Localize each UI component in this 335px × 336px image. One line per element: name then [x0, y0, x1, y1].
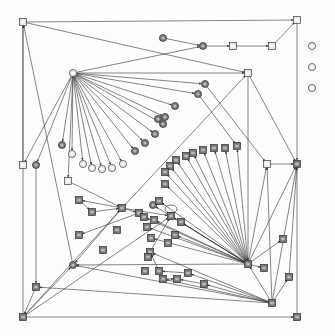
node-label-glyph	[163, 171, 167, 174]
graph-edge	[167, 280, 269, 302]
node-label-glyph	[270, 45, 274, 48]
node-label-glyph	[295, 163, 299, 166]
node-label-glyph	[110, 166, 113, 169]
node-label-glyph	[310, 86, 313, 89]
node-label-glyph	[101, 249, 105, 252]
node-label-glyph	[246, 72, 250, 75]
node-label-glyph	[295, 19, 299, 22]
self-loop-edge	[165, 205, 177, 213]
node-label-glyph	[70, 152, 73, 155]
node-label-glyph	[81, 162, 84, 165]
graph-edge	[152, 255, 158, 267]
graph-edge	[76, 75, 152, 132]
node-label-glyph	[71, 263, 74, 266]
node-label-glyph	[34, 286, 38, 289]
graph-svg	[0, 0, 335, 336]
graph-edge	[249, 168, 267, 261]
node-label-glyph	[146, 256, 150, 259]
node-label-glyph	[115, 229, 119, 232]
node-label-glyph	[246, 263, 250, 266]
node-label-glyph	[270, 302, 274, 305]
graph-edge	[172, 169, 246, 261]
node-label-glyph	[201, 44, 204, 47]
node-label-glyph	[90, 211, 94, 214]
graph-edge	[181, 280, 201, 284]
node-label-glyph	[145, 226, 149, 229]
node-label-glyph	[77, 199, 81, 202]
graph-edge	[74, 76, 110, 164]
node-label-glyph	[169, 215, 173, 218]
node-label-glyph	[184, 155, 188, 158]
graph-edge	[77, 266, 269, 303]
node-label-glyph	[142, 216, 146, 219]
node-label-glyph	[163, 183, 167, 186]
node-label-glyph	[161, 122, 164, 125]
graph-edge	[250, 76, 296, 161]
node-label-glyph	[148, 251, 152, 254]
graph-edge	[96, 208, 119, 211]
node-label-glyph	[161, 278, 165, 281]
node-label-glyph	[310, 65, 313, 68]
node-label-glyph	[133, 149, 136, 152]
node-label-glyph	[21, 164, 25, 167]
node-label-glyph	[143, 141, 146, 144]
graph-edge	[77, 264, 245, 265]
node-label-glyph	[21, 21, 25, 24]
graph-edge	[76, 74, 171, 105]
node-label-glyph	[143, 270, 147, 273]
node-label-glyph	[156, 117, 159, 120]
node-label-glyph	[100, 167, 103, 170]
node-label-glyph	[173, 104, 176, 107]
graph-edge	[251, 265, 260, 267]
graph-edge	[76, 75, 160, 122]
node-label-glyph	[157, 200, 161, 203]
graph-edge	[167, 175, 245, 262]
node-label-glyph	[295, 316, 299, 319]
graph-edge	[76, 76, 143, 141]
graph-edge	[25, 268, 70, 315]
node-label-glyph	[179, 221, 183, 224]
node-label-glyph	[166, 242, 170, 245]
graph-edge	[75, 76, 133, 148]
node-label-glyph	[121, 162, 124, 165]
node-label-glyph	[153, 132, 156, 135]
graph-edge	[274, 280, 287, 300]
graph-edge	[200, 97, 235, 143]
graph-edge	[178, 163, 246, 261]
graph-edge	[25, 76, 72, 162]
node-label-glyph	[310, 44, 313, 47]
graph-edge	[37, 76, 71, 161]
node-label-glyph	[281, 238, 285, 241]
graph-edge	[195, 156, 247, 261]
node-label-glyph	[157, 270, 161, 273]
graph-edge	[77, 74, 195, 94]
node-label-glyph	[196, 92, 199, 95]
graph-edge	[204, 153, 246, 260]
node-label-glyph	[201, 149, 205, 152]
node-label-glyph	[149, 237, 153, 240]
node-label-glyph	[174, 159, 178, 162]
node-label-glyph	[191, 152, 195, 155]
graph-edge	[27, 23, 245, 72]
graph-edge	[75, 76, 122, 161]
node-label-glyph	[212, 147, 216, 150]
node-label-glyph	[161, 36, 164, 39]
node-label-glyph	[77, 234, 81, 237]
graph-edge	[77, 47, 200, 73]
graph-edge	[27, 20, 294, 22]
node-label-glyph	[235, 145, 239, 148]
node-label-glyph	[203, 82, 206, 85]
graph-edge	[289, 168, 296, 274]
graph-edge	[26, 218, 168, 315]
node-label-glyph	[175, 278, 179, 281]
graph-edge	[83, 201, 119, 208]
node-label-glyph	[90, 166, 93, 169]
graph-edge	[167, 39, 200, 46]
graph-edge	[82, 214, 135, 234]
node-label-glyph	[287, 276, 291, 279]
node-label-glyph	[60, 143, 63, 146]
node-label-glyph	[173, 234, 177, 237]
node-label-glyph	[202, 283, 206, 286]
graph-edge	[77, 73, 202, 83]
node-label-glyph	[152, 219, 156, 222]
